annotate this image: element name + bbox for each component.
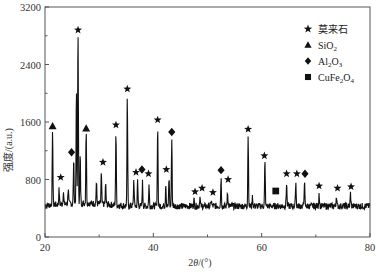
square-icon [272,188,279,195]
star-icon [74,26,82,34]
x-axis: 20406080 [40,233,376,253]
y-tick-label: 2400 [20,60,41,71]
triangle-icon [82,124,90,131]
diamond-icon [217,166,224,174]
star-icon [198,184,206,192]
xrd-chart: 0800160024003200 20406080 强度/(a.u.) 2θ/(… [0,0,376,275]
star-icon [315,182,323,190]
legend-item: CuFe2O4 [305,72,354,86]
legend-label: 莫来石 [318,24,348,35]
y-axis-title: 强度/(a.u.) [2,128,15,172]
y-tick-label: 800 [25,175,41,186]
legend-item: SiO2 [304,40,337,54]
diamond-icon [168,128,175,136]
x-tick-label: 20 [40,242,51,253]
legend: 莫来石SiO2Al2O3CuFe2O4 [304,24,355,86]
star-icon [57,173,65,181]
diamond-icon [301,170,308,178]
star-icon [224,175,232,183]
star-icon [162,165,170,173]
diamond-icon [305,57,311,65]
star-icon [209,188,217,196]
triangle-icon [49,122,57,129]
legend-label: CuFe2O4 [318,72,354,86]
x-tick-label: 80 [365,242,376,253]
square-icon [305,74,311,80]
legend-item: 莫来石 [304,24,348,35]
star-icon [99,158,107,166]
plot-area [45,26,370,210]
star-icon [144,170,152,178]
star-icon [334,184,342,192]
star-icon [283,170,291,178]
diamond-icon [68,148,75,156]
star-icon [123,85,131,93]
y-tick-label: 1600 [20,117,41,128]
x-axis-title: 2θ/(°) [188,257,211,269]
legend-label: Al2O3 [318,56,343,70]
star-icon [293,170,301,178]
y-tick-label: 3200 [20,2,41,13]
x-tick-label: 40 [148,242,159,253]
star-icon [347,182,355,190]
star-icon [260,152,268,160]
x-tick-label: 60 [256,242,267,253]
diamond-icon [138,165,145,173]
star-icon [154,116,162,124]
legend-item: Al2O3 [305,56,343,70]
star-icon [304,25,312,33]
legend-label: SiO2 [318,40,338,54]
triangle-icon [304,41,311,47]
star-icon [191,188,199,196]
star-icon [244,125,252,133]
star-icon [112,121,120,129]
